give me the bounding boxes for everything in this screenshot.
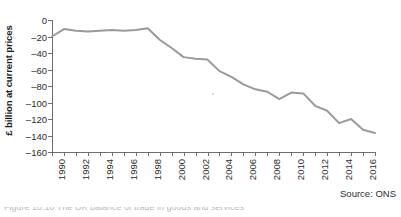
x-tick: [279, 152, 280, 156]
x-tick: [208, 152, 209, 156]
x-tick-label: 2008: [271, 159, 282, 180]
x-tick: [339, 152, 340, 156]
y-tick-label: –80: [31, 81, 47, 92]
x-tick-label: 1998: [152, 159, 163, 180]
x-tick-label: 2004: [223, 159, 234, 180]
x-tick: [160, 152, 161, 156]
y-tick-label: –20: [31, 31, 47, 42]
x-tick: [88, 152, 89, 156]
x-tick: [243, 152, 244, 156]
x-tick-label: 2010: [295, 159, 306, 180]
y-tick-label: –40: [31, 48, 47, 59]
x-tick: [231, 152, 232, 156]
x-tick: [363, 152, 364, 156]
y-axis-title: £ billion at current prices: [0, 0, 16, 160]
y-tick-label: –60: [31, 64, 47, 75]
x-tick: [184, 152, 185, 156]
series-line-balance-of-trade: [52, 28, 375, 133]
x-tick-label: 2006: [247, 159, 258, 180]
x-tick: [255, 152, 256, 156]
x-tick-label: 2014: [343, 159, 354, 180]
y-tick-label: –140: [26, 130, 47, 141]
x-tick: [375, 152, 376, 156]
y-axis-title-label: £ billion at current prices: [3, 25, 14, 135]
x-tick: [219, 152, 220, 156]
x-tick: [148, 152, 149, 156]
x-tick: [100, 152, 101, 156]
x-tick-label: 1996: [128, 159, 139, 180]
y-tick-label: 0: [42, 15, 47, 26]
x-tick: [291, 152, 292, 156]
x-tick: [64, 152, 65, 156]
x-tick: [172, 152, 173, 156]
x-tick: [267, 152, 268, 156]
figure-caption-text: Figure 10.10 The UK balance of trade in …: [4, 207, 304, 212]
source-note: Source: ONS: [340, 188, 396, 199]
x-tick: [315, 152, 316, 156]
x-tick: [124, 152, 125, 156]
chart-figure: £ billion at current prices 0–20–40–60–8…: [0, 0, 401, 217]
x-tick-label: 1990: [56, 159, 67, 180]
x-tick-label: 1994: [104, 159, 115, 180]
x-tick-label: 1992: [80, 159, 91, 180]
x-tick-label: 2016: [367, 159, 378, 180]
x-tick-label: 2012: [319, 159, 330, 180]
x-tick: [351, 152, 352, 156]
y-tick-label: –160: [26, 147, 47, 158]
artifact-speck: [212, 93, 214, 95]
x-tick: [303, 152, 304, 156]
x-tick: [136, 152, 137, 156]
x-tick: [327, 152, 328, 156]
y-tick-label: –120: [26, 114, 47, 125]
y-tick-label: –100: [26, 97, 47, 108]
x-tick-label: 2002: [200, 159, 211, 180]
plot-area: 0–20–40–60–80–100–120–140–160 1990199219…: [52, 20, 375, 152]
series-line-layer: [52, 20, 375, 152]
x-tick: [112, 152, 113, 156]
figure-caption-clipped: Figure 10.10 The UK balance of trade in …: [4, 207, 304, 217]
x-tick: [76, 152, 77, 156]
x-tick: [52, 152, 53, 156]
x-tick: [196, 152, 197, 156]
x-tick-label: 2000: [176, 159, 187, 180]
